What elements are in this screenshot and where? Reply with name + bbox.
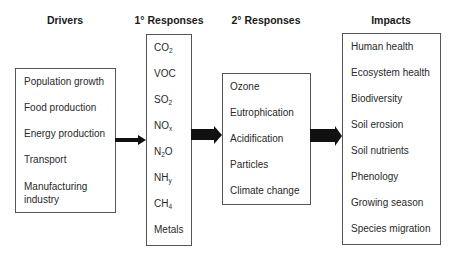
impact-item: Human health xyxy=(351,41,413,53)
formula-base: CH xyxy=(154,198,168,209)
primary-response-item: CH4 xyxy=(154,198,172,210)
primary-responses-title: 1° Responses xyxy=(128,14,210,26)
primary-responses-box: CO2VOCSO2NOxN2ONHyCH4Metals xyxy=(146,34,192,246)
arrow-secondary-to-impacts xyxy=(310,126,343,146)
formula-subscript: x xyxy=(169,125,172,132)
impact-item: Biodiversity xyxy=(351,93,402,105)
driver-item: Manufacturing industry xyxy=(24,180,87,206)
primary-response-item: NHy xyxy=(154,172,172,184)
driver-item: Population growth xyxy=(24,76,104,88)
formula-base: Metals xyxy=(154,224,183,235)
driver-item: Transport xyxy=(24,154,66,166)
driver-item: Energy production xyxy=(24,128,105,140)
formula-subscript: y xyxy=(168,177,171,184)
formula-suffix: O xyxy=(165,146,173,157)
secondary-item: Acidification xyxy=(230,133,283,145)
primary-response-item: NOx xyxy=(154,120,172,132)
secondary-responses-title: 2° Responses xyxy=(218,14,314,26)
impact-item: Soil nutrients xyxy=(351,145,409,157)
primary-response-item: N2O xyxy=(154,146,173,158)
impact-item: Soil erosion xyxy=(351,119,403,131)
primary-response-item: CO2 xyxy=(154,42,173,54)
secondary-responses-box: Ozone Eutrophication Acidification Parti… xyxy=(222,73,311,205)
primary-response-item: SO2 xyxy=(154,94,172,106)
secondary-item: Ozone xyxy=(230,81,259,93)
arrow-primary-to-secondary xyxy=(191,126,223,144)
primary-response-item: Metals xyxy=(154,224,183,236)
secondary-item: Climate change xyxy=(230,185,299,197)
formula-subscript: 4 xyxy=(168,203,172,210)
impact-item: Growing season xyxy=(351,197,423,209)
formula-base: CO xyxy=(154,42,169,53)
formula-base: NO xyxy=(154,120,169,131)
driver-item: Food production xyxy=(24,102,96,114)
secondary-item: Particles xyxy=(230,159,268,171)
drivers-title: Drivers xyxy=(15,14,115,26)
impacts-title: Impacts xyxy=(342,14,440,26)
impact-item: Species migration xyxy=(351,223,430,235)
impact-item: Ecosystem health xyxy=(351,67,430,79)
formula-subscript: 2 xyxy=(168,99,172,106)
formula-base: NH xyxy=(154,172,168,183)
secondary-item: Eutrophication xyxy=(230,107,294,119)
primary-response-item: VOC xyxy=(154,68,176,80)
arrow-drivers-to-primary xyxy=(115,134,147,146)
formula-subscript: 2 xyxy=(169,47,173,54)
impact-item: Phenology xyxy=(351,171,398,183)
formula-base: VOC xyxy=(154,68,176,79)
formula-base: SO xyxy=(154,94,168,105)
impacts-box: Human health Ecosystem health Biodiversi… xyxy=(342,33,441,245)
drivers-box: Population growth Food production Energy… xyxy=(15,68,116,213)
